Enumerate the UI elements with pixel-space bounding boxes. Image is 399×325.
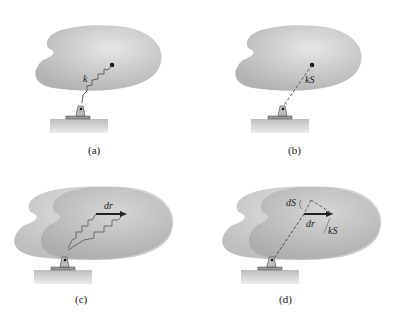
pin-support-icon	[278, 106, 287, 116]
panel-b	[235, 25, 361, 133]
spring-force-label: kS	[328, 225, 337, 236]
rigid-body	[249, 187, 381, 260]
spring-force-label: kS	[305, 74, 314, 85]
panel-d	[222, 187, 381, 284]
panel-a	[35, 25, 161, 133]
ground	[50, 119, 108, 133]
caption-d: (d)	[279, 293, 292, 305]
stretch-label: dS	[286, 197, 296, 208]
rigid-body	[235, 25, 361, 90]
pin-support-icon	[76, 106, 85, 116]
caption-b: (b)	[288, 144, 301, 156]
rigid-body	[41, 187, 173, 260]
spring-constant-label: k	[83, 73, 87, 84]
rigid-body	[35, 25, 161, 90]
caption-c: (c)	[75, 293, 87, 305]
displacement-label: dr	[104, 200, 113, 211]
caption-a: (a)	[88, 144, 100, 156]
panel-c	[14, 187, 173, 284]
displacement-label: dr	[306, 218, 315, 229]
diagram-canvas	[0, 0, 399, 325]
